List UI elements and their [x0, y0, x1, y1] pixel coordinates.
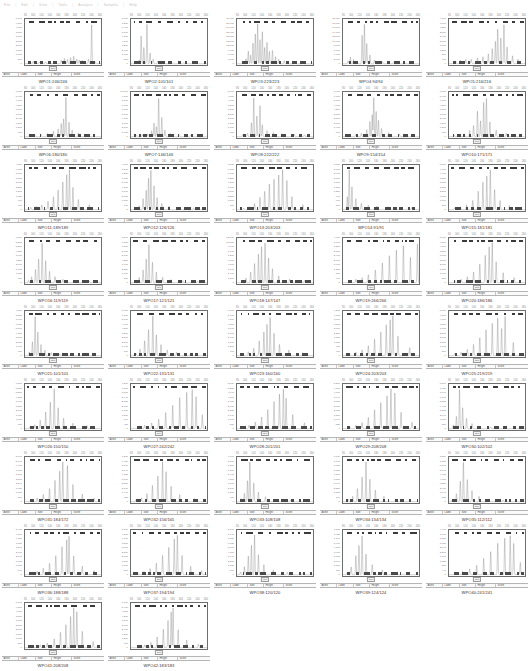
plot-area[interactable]	[448, 310, 526, 358]
table-header-cell-allele[interactable]: Allele	[2, 219, 19, 222]
electropherogram-panel[interactable]: 801001201401601802002202402604,4003,9603…	[424, 523, 530, 596]
plot-area[interactable]	[448, 237, 526, 285]
electropherogram-panel[interactable]: 801001201401601802002202402605,8005,2204…	[212, 377, 318, 450]
table-header-cell-allele[interactable]: Allele	[214, 511, 231, 514]
table-header-cell-score[interactable]: Score	[284, 219, 303, 222]
plot-area[interactable]	[236, 18, 314, 66]
table-header-cell-allele[interactable]: Allele	[108, 584, 125, 587]
table-header-cell-height[interactable]: Height	[370, 219, 390, 222]
table-header-cell-score[interactable]: Score	[72, 584, 91, 587]
table-header-cell-allele[interactable]: Allele	[2, 292, 19, 295]
table-header-cell-size[interactable]: Size	[248, 219, 264, 222]
table-header-cell-height[interactable]: Height	[476, 365, 496, 368]
table-header-cell-size[interactable]: Size	[354, 584, 370, 587]
table-header-cell-height[interactable]: Height	[158, 365, 178, 368]
table-header-cell-size[interactable]: Size	[248, 438, 264, 441]
table-header-cell-label[interactable]: Label	[125, 584, 142, 587]
table-header-cell-height[interactable]: Height	[264, 146, 284, 149]
table-header-cell-height[interactable]: Height	[370, 73, 390, 76]
plot-area[interactable]	[130, 310, 208, 358]
table-header-cell-score[interactable]: Score	[284, 146, 303, 149]
menu-item-samples[interactable]: Samples	[104, 3, 119, 7]
table-header-cell-score[interactable]: Score	[496, 73, 515, 76]
table-header-cell-score[interactable]: Score	[284, 584, 303, 587]
table-header-cell-allele[interactable]: Allele	[426, 73, 443, 76]
table-header-cell-size[interactable]: Size	[142, 657, 158, 660]
table-header-cell-score[interactable]: Score	[178, 219, 197, 222]
plot-area[interactable]	[342, 529, 420, 577]
plot-area[interactable]	[236, 529, 314, 577]
table-header-cell-label[interactable]: Label	[231, 511, 248, 514]
table-header-cell-size[interactable]: Size	[142, 584, 158, 587]
table-header-cell-height[interactable]: Height	[52, 219, 72, 222]
electropherogram-panel[interactable]: 8010012014016018020022024026012,00010,80…	[212, 231, 318, 304]
table-header-cell-height[interactable]: Height	[52, 292, 72, 295]
table-header-cell-label[interactable]: Label	[443, 365, 460, 368]
table-header-cell-score[interactable]: Score	[178, 365, 197, 368]
table-header-cell-label[interactable]: Label	[125, 438, 142, 441]
table-header-cell-height[interactable]: Height	[52, 438, 72, 441]
table-header-cell-allele[interactable]: Allele	[320, 511, 337, 514]
table-header-cell-score[interactable]: Score	[178, 146, 197, 149]
table-header-cell-label[interactable]: Label	[125, 219, 142, 222]
table-header-cell-allele[interactable]: Allele	[2, 365, 19, 368]
table-header-cell-allele[interactable]: Allele	[426, 292, 443, 295]
table-header-cell-size[interactable]: Size	[354, 292, 370, 295]
table-header-cell-height[interactable]: Height	[370, 511, 390, 514]
plot-area[interactable]	[448, 164, 526, 212]
table-header-cell-score[interactable]: Score	[178, 292, 197, 295]
electropherogram-panel[interactable]: 801001201401601802002202402607,8007,0206…	[318, 523, 424, 596]
table-header-cell-label[interactable]: Label	[337, 584, 354, 587]
table-header-cell-height[interactable]: Height	[476, 73, 496, 76]
electropherogram-panel[interactable]: 801001201401601802002202402608,0007,2006…	[106, 12, 212, 85]
table-header-cell-score[interactable]: Score	[178, 584, 197, 587]
table-header-cell-allele[interactable]: Allele	[108, 219, 125, 222]
electropherogram-panel[interactable]: 801001201401601802002202402609,0008,1007…	[212, 450, 318, 523]
electropherogram-panel[interactable]: 801001201401601802002202402606,0005,4004…	[212, 304, 318, 377]
table-header-cell-label[interactable]: Label	[125, 511, 142, 514]
table-header-cell-size[interactable]: Size	[354, 365, 370, 368]
table-header-cell-score[interactable]: Score	[178, 73, 197, 76]
menu-item-view[interactable]: View	[39, 3, 47, 7]
electropherogram-panel[interactable]: 801001201401601802002202402605,0004,5004…	[424, 304, 530, 377]
table-header-cell-score[interactable]: Score	[284, 73, 303, 76]
table-header-cell-label[interactable]: Label	[337, 365, 354, 368]
plot-area[interactable]	[342, 91, 420, 139]
electropherogram-panel[interactable]: 801001201401601802002202402607,0006,3005…	[318, 85, 424, 158]
electropherogram-panel[interactable]: 801001201401601802002202402603,0002,7002…	[318, 158, 424, 231]
plot-area[interactable]	[448, 529, 526, 577]
table-header-cell-height[interactable]: Height	[264, 584, 284, 587]
plot-area[interactable]	[342, 310, 420, 358]
table-header-cell-allele[interactable]: Allele	[320, 292, 337, 295]
electropherogram-panel[interactable]: 801001201401601802002202402607,6006,8406…	[318, 450, 424, 523]
table-header-cell-allele[interactable]: Allele	[320, 365, 337, 368]
table-header-cell-height[interactable]: Height	[52, 73, 72, 76]
table-header-cell-allele[interactable]: Allele	[2, 511, 19, 514]
table-header-cell-size[interactable]: Size	[460, 292, 476, 295]
table-header-cell-allele[interactable]: Allele	[2, 73, 19, 76]
table-header-cell-score[interactable]: Score	[72, 365, 91, 368]
table-header-cell-allele[interactable]: Allele	[2, 438, 19, 441]
electropherogram-panel[interactable]: 801001201401601802002202402605,0004,5004…	[212, 85, 318, 158]
plot-area[interactable]	[130, 529, 208, 577]
table-header-cell-height[interactable]: Height	[52, 511, 72, 514]
table-header-cell-size[interactable]: Size	[248, 365, 264, 368]
plot-area[interactable]	[130, 602, 208, 650]
table-header-cell-allele[interactable]: Allele	[108, 146, 125, 149]
table-header-cell-label[interactable]: Label	[231, 146, 248, 149]
table-header-cell-label[interactable]: Label	[231, 365, 248, 368]
table-header-cell-label[interactable]: Label	[125, 657, 142, 660]
table-header-cell-height[interactable]: Height	[158, 511, 178, 514]
table-header-cell-score[interactable]: Score	[496, 292, 515, 295]
table-header-cell-height[interactable]: Height	[476, 219, 496, 222]
table-header-cell-label[interactable]: Label	[337, 438, 354, 441]
table-header-cell-size[interactable]: Size	[248, 292, 264, 295]
menu-toolbar[interactable]: File | Edit | View | Tools | Analysis | …	[4, 1, 244, 9]
plot-area[interactable]	[130, 237, 208, 285]
table-header-cell-score[interactable]: Score	[284, 438, 303, 441]
table-header-cell-size[interactable]: Size	[354, 219, 370, 222]
table-header-cell-label[interactable]: Label	[443, 219, 460, 222]
plot-area[interactable]	[24, 237, 102, 285]
table-header-cell-score[interactable]: Score	[72, 292, 91, 295]
table-header-cell-score[interactable]: Score	[496, 365, 515, 368]
